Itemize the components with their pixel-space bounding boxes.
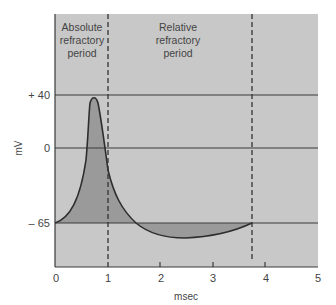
x-tick-4: 4 xyxy=(263,272,269,284)
absolute-label-line3: period xyxy=(67,47,96,59)
y-tick-zero: 0 xyxy=(44,142,50,154)
relative-label-line1: Relative xyxy=(159,21,197,33)
y-tick-plus40: + 40 xyxy=(28,89,50,101)
x-tick-5: 5 xyxy=(315,272,321,284)
y-tick-minus65: – 65 xyxy=(29,217,50,229)
relative-label-line2: refractory xyxy=(156,34,201,46)
x-axis-title: msec xyxy=(174,291,198,302)
x-tick-1: 1 xyxy=(105,272,111,284)
y-axis-title: mV xyxy=(13,140,24,155)
action-potential-chart: 0 1 2 3 4 5 + 40 0 – 65 mV msec Absolute… xyxy=(0,0,336,305)
relative-label-line3: period xyxy=(163,47,192,59)
x-tick-2: 2 xyxy=(158,272,164,284)
absolute-label-line2: refractory xyxy=(60,34,105,46)
x-tick-3: 3 xyxy=(210,272,216,284)
x-tick-0: 0 xyxy=(53,272,59,284)
absolute-label-line1: Absolute xyxy=(62,21,103,33)
